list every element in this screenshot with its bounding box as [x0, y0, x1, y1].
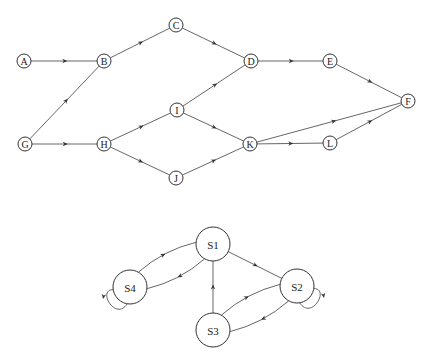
node-S1: S1: [196, 227, 230, 261]
dag-graph: ABCDEFGHIJKL: [17, 18, 415, 185]
node-F: F: [401, 94, 415, 108]
node-I: I: [170, 103, 184, 117]
node-K: K: [243, 137, 257, 151]
edge-E-F: [336, 64, 402, 98]
edge-S4-S1: [139, 242, 196, 272]
arrowhead-icon: [321, 293, 325, 298]
edge-S2-S3: [230, 301, 288, 332]
node-label: B: [101, 56, 108, 67]
node-label: S2: [291, 281, 303, 293]
arrowhead-icon: [212, 83, 217, 88]
node-L: L: [323, 136, 337, 150]
state-machine-graph: S1S2S3S4: [102, 227, 325, 347]
edge-I-D: [183, 65, 245, 106]
arrowhead-icon: [102, 294, 106, 299]
node-G: G: [18, 137, 32, 151]
node-B: B: [97, 54, 111, 68]
edge-G-B: [30, 66, 99, 139]
node-label: C: [173, 20, 180, 31]
node-label: K: [246, 139, 254, 150]
node-J: J: [169, 171, 183, 185]
node-E: E: [323, 54, 337, 68]
node-C: C: [169, 18, 183, 32]
edge-S1-S4: [147, 259, 204, 289]
node-label: S3: [207, 325, 219, 337]
edge-L-F: [336, 104, 402, 139]
node-A: A: [17, 54, 31, 68]
edge-S3-S2: [221, 284, 279, 315]
node-S2: S2: [280, 269, 314, 303]
node-label: G: [21, 139, 28, 150]
node-label: I: [175, 105, 178, 116]
node-label: H: [100, 139, 107, 150]
node-label: A: [20, 56, 28, 67]
node-D: D: [244, 54, 258, 68]
node-label: S4: [124, 282, 136, 294]
node-label: E: [327, 56, 333, 67]
node-label: D: [247, 56, 254, 67]
node-label: F: [405, 96, 411, 107]
node-S4: S4: [113, 270, 147, 304]
diagram-canvas: ABCDEFGHIJKL S1S2S3S4: [0, 0, 435, 363]
node-label: J: [174, 173, 178, 184]
node-label: L: [327, 138, 333, 149]
node-label: S1: [207, 239, 219, 251]
node-S3: S3: [196, 313, 230, 347]
node-H: H: [97, 137, 111, 151]
